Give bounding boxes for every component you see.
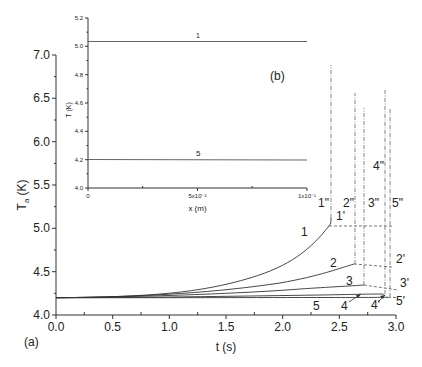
svg-text:Ta(K): Ta(K) xyxy=(15,180,31,211)
main-x-label: t (s) xyxy=(216,340,237,354)
inset-line-5 xyxy=(88,160,307,161)
label-3-double-prime: 3" xyxy=(368,196,379,210)
main-y-tick-labels: 4.0 4.5 5.0 5.5 6.0 6.5 7.0 xyxy=(33,48,50,322)
xtick-label: 1.5 xyxy=(218,320,235,334)
panel-label-a: (a) xyxy=(24,335,39,349)
label-5: 5 xyxy=(313,299,320,313)
xtick-label: 1.0 xyxy=(161,320,178,334)
label-3: 3 xyxy=(346,274,353,288)
curve-2-prime xyxy=(354,264,392,267)
curve-1-knee xyxy=(329,218,331,226)
inset-xtick-label: 5x10⁻² xyxy=(188,193,206,199)
label-5-double-prime: 5" xyxy=(392,196,403,210)
inset-x-tick-labels: 0 5x10⁻² 1x10⁻¹ xyxy=(86,193,316,199)
inset-x-label: x (m) xyxy=(188,204,207,213)
inset-ytick-label: 5.0 xyxy=(75,43,84,49)
inset-ytick-label: 4.2 xyxy=(75,157,84,163)
label-4: 4 xyxy=(341,299,348,313)
label-2: 2 xyxy=(330,256,337,270)
main-y-ticks xyxy=(52,55,56,315)
panel-label-b: (b) xyxy=(270,69,285,83)
ytick-label: 6.5 xyxy=(33,91,50,105)
xtick-label: 2.0 xyxy=(274,320,291,334)
inset-label-1: 1 xyxy=(196,32,200,39)
xtick-label: 0.5 xyxy=(104,320,121,334)
xtick-label: 2.5 xyxy=(331,320,348,334)
label-1-prime: 1' xyxy=(336,209,345,223)
inset-ytick-label: 5.2 xyxy=(75,15,84,21)
ytick-label: 5.0 xyxy=(33,221,50,235)
label-4-prime: 4' xyxy=(371,298,380,312)
inset-label-5: 5 xyxy=(196,149,201,158)
curve-3-prime xyxy=(364,285,398,290)
inset-ytick-label: 4.6 xyxy=(75,100,84,106)
xtick-label: 3.0 xyxy=(388,320,405,334)
ytick-label: 7.0 xyxy=(33,48,50,62)
label-1-double-prime: 1" xyxy=(318,196,329,210)
label-4-double-prime: 4" xyxy=(373,159,384,173)
inset-ytick-label: 4.4 xyxy=(75,128,84,134)
ytick-label: 4.5 xyxy=(33,265,50,279)
label-2-double-prime: 2" xyxy=(343,196,354,210)
figure: 4.0 4.5 5.0 5.5 6.0 6.5 7.0 0.0 0.5 xyxy=(0,0,422,367)
xtick-label: 0.0 xyxy=(48,320,65,334)
inset-ytick-label: 4.8 xyxy=(75,72,84,78)
curve-1 xyxy=(56,226,329,298)
label-2-prime: 2' xyxy=(396,252,405,266)
inset-plot: 4.0 4.2 4.4 4.6 4.8 5.0 5.2 0 5x10⁻² 1x1… xyxy=(65,15,316,213)
curve-2 xyxy=(56,264,354,298)
inset-xtick-label: 1x10⁻¹ xyxy=(298,193,316,199)
inset-ytick-label: 4.0 xyxy=(75,185,84,191)
main-plot: 4.0 4.5 5.0 5.5 6.0 6.5 7.0 0.0 0.5 xyxy=(15,48,409,354)
label-3-prime: 3' xyxy=(400,276,409,290)
main-y-label: Ta(K) xyxy=(15,180,31,211)
main-x-tick-labels: 0.0 0.5 1.0 1.5 2.0 2.5 3.0 xyxy=(48,320,405,334)
label-1: 1 xyxy=(301,225,308,239)
label-5-prime: 5' xyxy=(396,294,405,308)
inset-y-label: T (K) xyxy=(65,102,73,117)
ytick-label: 6.0 xyxy=(33,135,50,149)
inset-y-tick-labels: 4.0 4.2 4.4 4.6 4.8 5.0 5.2 xyxy=(75,15,84,191)
inset-xtick-label: 0 xyxy=(86,193,90,199)
ytick-label: 5.5 xyxy=(33,178,50,192)
